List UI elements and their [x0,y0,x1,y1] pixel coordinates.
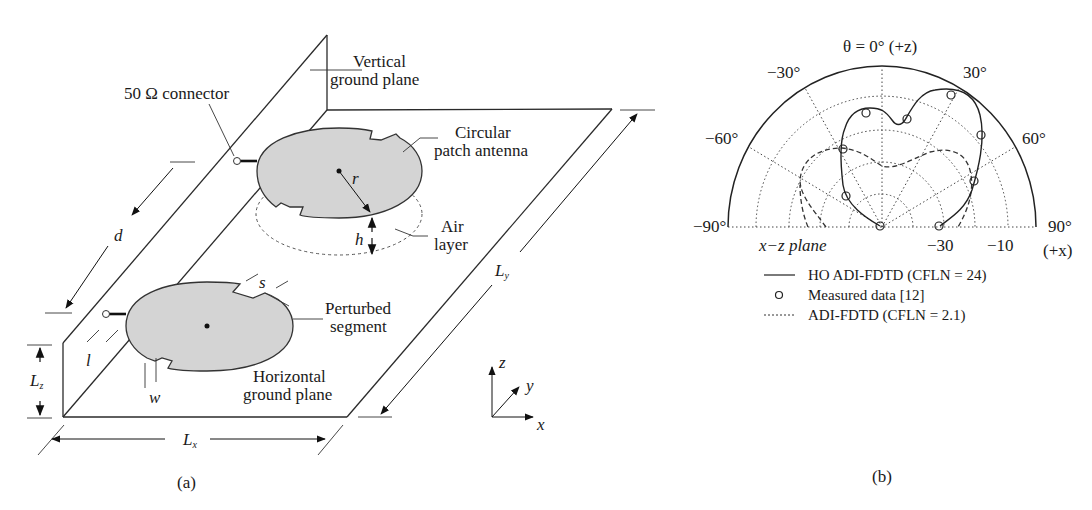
w-dimension: w [145,358,161,407]
radius-label: r [352,169,359,188]
adi-fdtd-curve-tail [800,185,808,227]
legend-item-measured: Measured data [12] [808,287,925,303]
caption-b: (b) [872,467,892,486]
air-layer-leader [395,229,428,236]
connector-label: 50 Ω connector [124,84,229,103]
legend-item-ho-adi: HO ADI-FDTD (CFLN = 24) [808,267,986,284]
svg-text:Lx: Lx [182,430,197,450]
z-axis-label: z [498,353,506,372]
s-dimension: s [246,273,288,292]
angle-label-30: 30° [963,63,987,82]
figure-a-antenna-diagram: r h Vertical ground plane 50 Ω connector… [27,35,655,492]
l-label: l [86,351,91,370]
radial-label-minus-10: −10 [987,236,1014,255]
legend-circle-swatch [776,292,783,299]
lz-label: L [29,371,39,390]
patch-label-1: Circular [455,123,511,142]
upper-connector-icon [234,158,241,165]
d-label: d [114,226,123,245]
plane-label: x−z plane [758,236,827,255]
x-axis-label: x [536,415,545,434]
perturbed-label-1: Perturbed [325,299,392,318]
angle-label-minus-30: −30° [767,63,800,82]
svg-text:Ly: Ly [494,261,509,281]
lx-dimension: Lx [38,425,343,455]
horizontal-plane-label-2: ground plane [243,385,332,404]
coordinate-axes-icon: z y x [492,353,545,434]
w-label: w [149,388,161,407]
height-label: h [355,230,364,249]
connector-leader [209,104,234,156]
svg-text:Lz: Lz [29,371,43,391]
angle-label-minus-60: −60° [705,129,738,148]
angle-label-minus-90: −90° [693,217,726,236]
vertical-plane-label-1: Vertical [353,52,406,71]
vertical-plane-label-2: ground plane [330,70,419,89]
polar-title: θ = 0° (+z) [843,37,917,56]
figure-b-polar-plot: θ = 0° (+z) −30° 30° −60° 60° −90° 90° (… [693,37,1072,486]
adi-fdtd-curve [800,148,972,227]
lz-dimension: Lz [27,345,52,418]
figure-canvas: r h Vertical ground plane 50 Ω connector… [0,0,1092,510]
y-axis-label: y [524,376,534,395]
polar-grid [728,67,1036,227]
plus-x-label: (+x) [1043,241,1072,260]
air-label-1: Air [441,217,464,236]
radial-label-minus-30: −30 [927,236,954,255]
legend: HO ADI-FDTD (CFLN = 24) Measured data [1… [764,267,986,324]
legend-item-adi: ADI-FDTD (CFLN = 2.1) [808,307,966,324]
ho-adi-fdtd-curve [841,89,982,226]
caption-a: (a) [177,473,196,492]
angle-label-90: 90° [1048,217,1072,236]
lz-subscript: z [38,380,43,391]
ly-label: L [494,261,504,280]
l-dimension: l [86,330,118,370]
s-label: s [259,273,266,292]
patch-label-2: patch antenna [434,141,528,160]
horizontal-plane-label-1: Horizontal [253,367,326,386]
angle-label-60: 60° [1022,129,1046,148]
lower-patch-center-dot [205,324,210,329]
lower-connector-icon [103,311,110,318]
lx-subscript: x [191,439,197,450]
lx-label: L [182,430,192,449]
ly-subscript: y [503,270,509,281]
perturbed-label-2: segment [330,317,387,336]
lower-circular-patch [126,282,293,371]
air-label-2: layer [434,235,468,254]
